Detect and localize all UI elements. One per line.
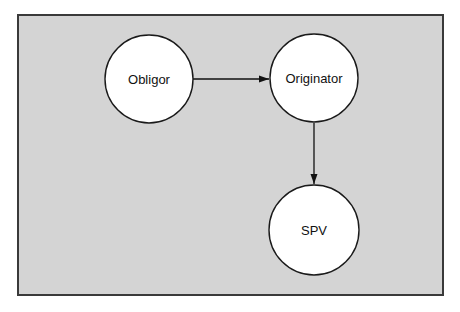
node-obligor: Obligor xyxy=(105,35,193,123)
node-spv: SPV xyxy=(269,185,359,275)
node-originator-label: Originator xyxy=(285,71,343,86)
diagram-canvas: Obligor Originator SPV xyxy=(0,0,460,312)
node-originator: Originator xyxy=(270,34,358,122)
node-spv-label: SPV xyxy=(301,223,327,238)
node-obligor-label: Obligor xyxy=(128,72,171,87)
diagram-frame xyxy=(18,15,443,295)
